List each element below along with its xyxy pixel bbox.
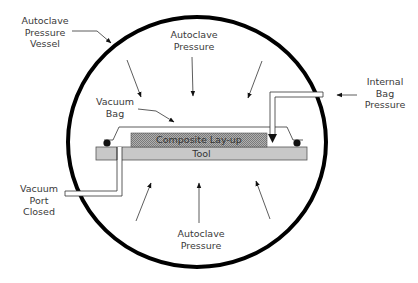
label-line: Pressure	[16, 27, 74, 39]
label-autoclave-pressure-top: Autoclave Pressure	[163, 29, 225, 52]
pressure-arrow-bottom-left	[136, 183, 151, 221]
label-internal-bag-pressure: Internal Bag Pressure	[358, 76, 412, 111]
vessel-leader-line	[72, 31, 111, 43]
label-pressure-vessel: Autoclave Pressure Vessel	[16, 15, 74, 50]
label-tool: Tool	[96, 148, 307, 160]
label-line: Vacuum	[92, 96, 138, 108]
label-line: Pressure	[358, 99, 412, 111]
vacuum-bag-leader-line	[138, 109, 174, 122]
label-vacuum-bag: Vacuum Bag	[92, 96, 138, 119]
pressure-arrow-top-right	[248, 61, 262, 98]
sealant-bead-left	[103, 139, 110, 146]
sealant-bead-right	[293, 139, 300, 146]
label-line: Bag	[358, 88, 412, 100]
label-line: Autoclave	[170, 228, 232, 240]
label-line: Vessel	[16, 38, 74, 50]
label-line: Port	[16, 195, 62, 207]
label-autoclave-pressure-bottom: Autoclave Pressure	[170, 228, 232, 251]
pressure-arrow-top-center	[192, 57, 193, 96]
label-vacuum-port: Vacuum Port Closed	[16, 183, 62, 218]
internal-pressure-tube-arrowhead	[268, 134, 277, 143]
label-line: Pressure	[163, 41, 225, 53]
pressure-arrow-top-left	[127, 60, 141, 97]
label-line: Autoclave	[163, 29, 225, 41]
label-line: Internal	[358, 76, 412, 88]
label-line: Pressure	[170, 240, 232, 252]
label-line: Vacuum	[16, 183, 62, 195]
label-line: Closed	[16, 206, 62, 218]
pressure-arrow-bottom-right	[256, 181, 270, 219]
label-line: Bag	[92, 108, 138, 120]
internal-pressure-tube	[270, 92, 323, 136]
label-composite-layup: Composite Lay-up	[131, 134, 267, 146]
label-line: Autoclave	[16, 15, 74, 27]
